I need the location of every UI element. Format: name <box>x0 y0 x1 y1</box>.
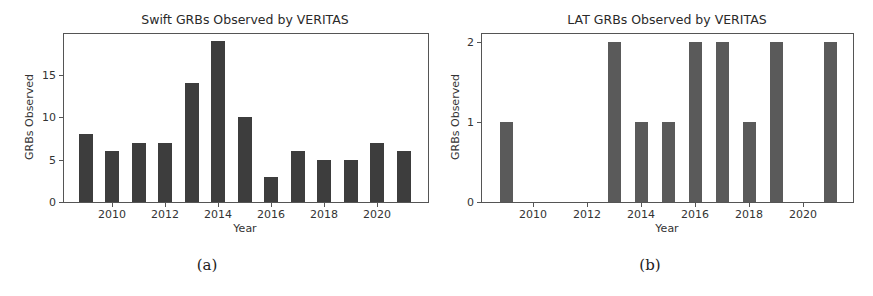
bar-2016 <box>689 42 702 202</box>
bar-2017 <box>716 42 729 202</box>
y-tick <box>477 42 481 43</box>
chart-title: LAT GRBs Observed by VERITAS <box>567 12 766 27</box>
x-tick <box>749 203 750 207</box>
bar-2018 <box>743 122 756 202</box>
x-tick <box>803 203 804 207</box>
x-tick-label: 2010 <box>519 208 547 221</box>
x-tick <box>533 203 534 207</box>
caption: (b) <box>639 256 660 274</box>
x-tick <box>641 203 642 207</box>
y-tick <box>477 202 481 203</box>
x-axis-label: Year <box>655 222 678 235</box>
bar-2009 <box>500 122 513 202</box>
bar-2019 <box>770 42 783 202</box>
panel-b: LAT GRBs Observed by VERITAS GRBs Observ… <box>0 0 873 296</box>
plot-area <box>481 33 854 203</box>
x-tick-label: 2020 <box>789 208 817 221</box>
x-tick <box>695 203 696 207</box>
bar-2021 <box>824 42 837 202</box>
x-tick-label: 2016 <box>681 208 709 221</box>
bar-2013 <box>608 42 621 202</box>
y-tick-label: 2 <box>454 36 474 49</box>
x-tick-label: 2014 <box>627 208 655 221</box>
y-tick <box>477 122 481 123</box>
x-tick <box>587 203 588 207</box>
y-tick-label: 0 <box>454 196 474 209</box>
bar-2014 <box>635 122 648 202</box>
x-tick-label: 2012 <box>573 208 601 221</box>
bar-2015 <box>662 122 675 202</box>
x-tick-label: 2018 <box>735 208 763 221</box>
y-tick-label: 1 <box>454 116 474 129</box>
